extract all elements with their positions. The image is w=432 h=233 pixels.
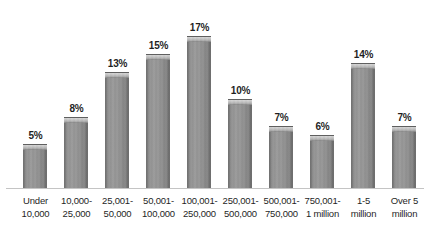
bar-value-label: 5% (15, 130, 56, 141)
bar-slot: 10% (220, 6, 261, 189)
category-label-line1: 25,001- (97, 194, 138, 207)
category-label-line2: million (343, 207, 384, 220)
bar-top-cap (351, 64, 375, 69)
category-label-line2: 50,000 (97, 207, 138, 220)
bar-texture (23, 145, 47, 189)
category-label-line2: million (384, 207, 425, 220)
bar-slot: 6% (302, 6, 343, 189)
x-axis-line (6, 188, 424, 189)
bar[interactable] (310, 135, 334, 189)
bar-slot: 15% (138, 6, 179, 189)
category-label-line2: 100,000 (138, 207, 179, 220)
category-label-line1: Under (15, 194, 56, 207)
bar-top-cap (228, 100, 252, 105)
bar-slot: 7% (261, 6, 302, 189)
category-label-line1: Over 5 (384, 194, 425, 207)
bar-value-label: 7% (261, 112, 302, 123)
category-label: 1-5million (343, 194, 384, 220)
bar-top-cap (269, 127, 293, 132)
category-label-line1: 50,001- (138, 194, 179, 207)
category-label-line1: 250,001- (220, 194, 261, 207)
category-label-line1: 1-5 (343, 194, 384, 207)
bar-slot: 8% (56, 6, 97, 189)
bar-slot: 17% (179, 6, 220, 189)
category-label: 750,001-1 million (302, 194, 343, 220)
category-label-line2: 750,000 (261, 207, 302, 220)
bar-texture (392, 127, 416, 189)
bar-texture (187, 37, 211, 189)
bar-value-label: 14% (343, 49, 384, 60)
category-label: 100,001-250,000 (179, 194, 220, 220)
bar-slot: 7% (384, 6, 425, 189)
bar[interactable] (105, 72, 129, 189)
bar[interactable] (23, 144, 47, 189)
category-label-line2: 25,000 (56, 207, 97, 220)
category-label-line1: 750,001- (302, 194, 343, 207)
x-axis-category-labels: Under10,00010,000-25,00025,001-50,00050,… (8, 194, 424, 232)
bar[interactable] (187, 36, 211, 189)
bar-texture (228, 100, 252, 189)
bar[interactable] (64, 117, 88, 189)
bar-slot: 14% (343, 6, 384, 189)
bar-value-label: 8% (56, 103, 97, 114)
category-label: 10,000-25,000 (56, 194, 97, 220)
bar-value-label: 6% (302, 121, 343, 132)
bar-top-cap (64, 118, 88, 123)
category-label: Over 5million (384, 194, 425, 220)
category-label-line1: 100,001- (179, 194, 220, 207)
bar[interactable] (392, 126, 416, 189)
category-label-line2: 250,000 (179, 207, 220, 220)
category-label-line2: 500,000 (220, 207, 261, 220)
category-label-line2: 10,000 (15, 207, 56, 220)
bar-value-label: 10% (220, 85, 261, 96)
bar-texture (105, 73, 129, 189)
bar-top-cap (146, 55, 170, 60)
bar-texture (146, 55, 170, 189)
category-label: 50,001-100,000 (138, 194, 179, 220)
bar-top-cap (310, 136, 334, 141)
plot-area: 5%8%13%15%17%10%7%6%14%7% (8, 6, 424, 189)
category-label: 25,001-50,000 (97, 194, 138, 220)
bar-slot: 5% (15, 6, 56, 189)
category-label-line1: 10,000- (56, 194, 97, 207)
bar-top-cap (187, 37, 211, 42)
bar-texture (351, 64, 375, 189)
category-label: 500,001-750,000 (261, 194, 302, 220)
bar-top-cap (105, 73, 129, 78)
bar-slot: 13% (97, 6, 138, 189)
bar[interactable] (146, 54, 170, 189)
category-label: 250,001-500,000 (220, 194, 261, 220)
bar-top-cap (392, 127, 416, 132)
bar-value-label: 17% (179, 22, 220, 33)
bar[interactable] (269, 126, 293, 189)
bar[interactable] (351, 63, 375, 189)
bar-value-label: 7% (384, 112, 425, 123)
bar-value-label: 13% (97, 58, 138, 69)
bar-value-label: 15% (138, 40, 179, 51)
category-label-line1: 500,001- (261, 194, 302, 207)
bar-texture (269, 127, 293, 189)
bar-chart: 5%8%13%15%17%10%7%6%14%7% Under10,00010,… (0, 0, 432, 233)
category-label-line2: 1 million (302, 207, 343, 220)
category-label: Under10,000 (15, 194, 56, 220)
bar-texture (64, 118, 88, 189)
bar[interactable] (228, 99, 252, 189)
bar-top-cap (23, 145, 47, 150)
bar-texture (310, 136, 334, 189)
